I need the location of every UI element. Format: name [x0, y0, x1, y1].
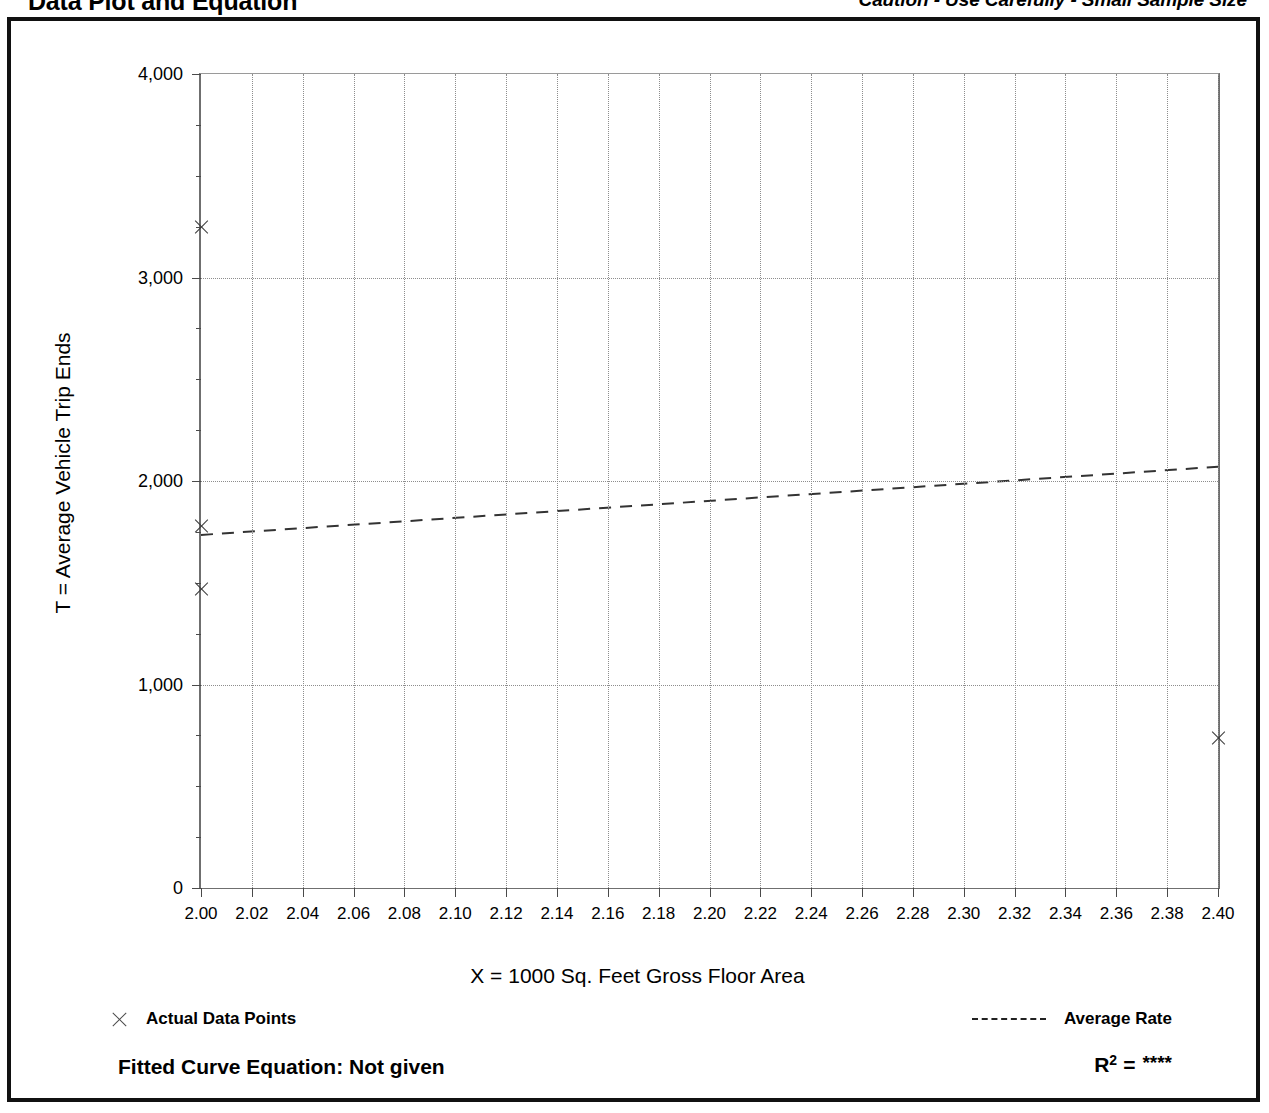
- x-axis-tick: [811, 888, 812, 897]
- x-axis-tick: [303, 888, 304, 897]
- plot-inner: 2.002.022.042.062.082.102.122.142.162.18…: [201, 74, 1218, 888]
- caution-note: Caution - Use Carefully - Small Sample S…: [859, 0, 1247, 11]
- x-axis-tick-label: 2.38: [1151, 904, 1184, 924]
- y-axis-minor-tick: [196, 735, 201, 736]
- x-axis-tick-label: 2.04: [286, 904, 319, 924]
- y-axis-tick: [192, 888, 201, 889]
- y-axis-title: T = Average Vehicle Trip Ends: [51, 332, 75, 613]
- x-axis-tick-label: 2.18: [642, 904, 675, 924]
- x-axis-tick: [659, 888, 660, 897]
- r-exponent: 2: [1109, 1052, 1117, 1068]
- x-axis-tick-label: 2.34: [1049, 904, 1082, 924]
- x-axis-tick-label: 2.32: [998, 904, 1031, 924]
- y-axis-tick: [192, 278, 201, 279]
- fitted-curve-equation: Fitted Curve Equation: Not given: [118, 1055, 445, 1079]
- x-axis-tick-label: 2.22: [744, 904, 777, 924]
- x-axis-tick-label: 2.30: [947, 904, 980, 924]
- x-axis-tick: [506, 888, 507, 897]
- x-axis-tick: [1218, 888, 1219, 897]
- x-axis-tick-label: 2.28: [896, 904, 929, 924]
- y-axis-minor-tick: [196, 328, 201, 329]
- r-symbol: R: [1094, 1053, 1109, 1077]
- x-axis-tick-label: 2.14: [540, 904, 573, 924]
- page-title: Data Plot and Equation: [28, 0, 297, 16]
- page-header: Data Plot and Equation Caution - Use Car…: [0, 0, 1269, 16]
- r-squared-value: R2=****: [1094, 1053, 1172, 1077]
- x-axis-tick-label: 2.16: [591, 904, 624, 924]
- legend-actual-data-points: Actual Data Points: [109, 1009, 296, 1029]
- plot-area: 2.002.022.042.062.082.102.122.142.162.18…: [199, 73, 1220, 889]
- data-point-marker: [192, 517, 210, 535]
- r-squared-stars: ****: [1142, 1052, 1172, 1074]
- x-axis-tick-label: 2.40: [1201, 904, 1234, 924]
- y-axis-minor-tick: [196, 837, 201, 838]
- y-axis-tick: [192, 74, 201, 75]
- data-point-marker: [1209, 729, 1227, 747]
- x-axis-tick-label: 2.24: [795, 904, 828, 924]
- y-gridline: [201, 278, 1218, 279]
- x-axis-tick: [964, 888, 965, 897]
- y-axis-minor-tick: [196, 176, 201, 177]
- y-axis-minor-tick: [196, 125, 201, 126]
- x-axis-tick: [557, 888, 558, 897]
- dashed-line-icon: [972, 1018, 1046, 1020]
- x-axis-tick: [760, 888, 761, 897]
- y-axis-tick-label: 2,000: [138, 471, 183, 492]
- y-axis-minor-tick: [196, 786, 201, 787]
- y-axis-minor-tick: [196, 379, 201, 380]
- x-axis-tick: [710, 888, 711, 897]
- x-axis-tick: [913, 888, 914, 897]
- x-axis-tick-label: 2.06: [337, 904, 370, 924]
- x-axis-tick: [354, 888, 355, 897]
- x-axis-tick-label: 2.12: [490, 904, 523, 924]
- x-axis-title: X = 1000 Sq. Feet Gross Floor Area: [11, 964, 1264, 988]
- x-axis-tick-label: 2.26: [846, 904, 879, 924]
- x-axis-tick-label: 2.10: [439, 904, 472, 924]
- x-axis-tick: [608, 888, 609, 897]
- y-axis-minor-tick: [196, 430, 201, 431]
- data-point-marker: [192, 218, 210, 236]
- chart-frame: T = Average Vehicle Trip Ends 2.002.022.…: [7, 17, 1260, 1102]
- legend-label-average-rate: Average Rate: [1064, 1009, 1172, 1029]
- x-marker-icon: [109, 1010, 128, 1029]
- y-gridline: [201, 685, 1218, 686]
- y-axis-tick-label: 3,000: [138, 267, 183, 288]
- x-gridline: [1218, 74, 1219, 888]
- y-gridline: [201, 481, 1218, 482]
- data-point-marker: [192, 580, 210, 598]
- x-axis-tick-label: 2.20: [693, 904, 726, 924]
- y-axis-minor-tick: [196, 634, 201, 635]
- y-axis-tick-label: 0: [173, 878, 183, 899]
- x-axis-tick: [1015, 888, 1016, 897]
- x-axis-tick: [201, 888, 202, 897]
- x-axis-tick: [455, 888, 456, 897]
- x-axis-tick: [252, 888, 253, 897]
- x-axis-tick: [1116, 888, 1117, 897]
- x-axis-tick-label: 2.36: [1100, 904, 1133, 924]
- chart-container: T = Average Vehicle Trip Ends 2.002.022.…: [11, 21, 1264, 1106]
- x-axis-tick-label: 2.00: [184, 904, 217, 924]
- x-axis-tick-label: 2.02: [235, 904, 268, 924]
- x-axis-tick: [1065, 888, 1066, 897]
- y-axis-tick: [192, 685, 201, 686]
- x-axis-tick: [862, 888, 863, 897]
- legend-average-rate: Average Rate: [972, 1009, 1172, 1029]
- y-axis-tick: [192, 481, 201, 482]
- y-axis-tick-label: 1,000: [138, 674, 183, 695]
- legend-label-actual-data-points: Actual Data Points: [146, 1009, 296, 1029]
- x-axis-tick: [1167, 888, 1168, 897]
- y-axis-tick-label: 4,000: [138, 64, 183, 85]
- equals-sign: =: [1123, 1053, 1135, 1077]
- x-axis-tick: [404, 888, 405, 897]
- x-axis-tick-label: 2.08: [388, 904, 421, 924]
